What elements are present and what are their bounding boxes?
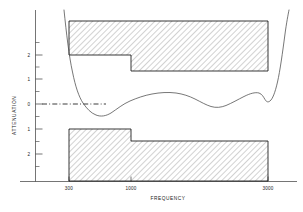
y-axis-major-ticks <box>36 55 43 154</box>
x-tick-label-1000: 1000 <box>125 186 136 191</box>
y-tick-label-0: 0 <box>28 102 31 107</box>
upper-limit-mask <box>69 21 268 71</box>
y-tick-label-1-lower: 1 <box>28 127 31 132</box>
attenuation-vs-frequency-chart: 2 1 0 1 2 ATTENUATION 300 1000 3000 FREQ… <box>0 0 303 212</box>
x-tick-label-300: 300 <box>65 186 74 191</box>
y-tick-label-2-upper: 2 <box>28 53 31 58</box>
lower-limit-mask <box>69 129 268 181</box>
chart-canvas: 2 1 0 1 2 ATTENUATION 300 1000 3000 FREQ… <box>0 0 303 212</box>
y-axis-minor-ticks <box>36 43 40 167</box>
x-tick-label-3000: 3000 <box>262 186 273 191</box>
y-tick-label-2-lower: 2 <box>28 152 31 157</box>
y-tick-label-1-upper: 1 <box>28 77 31 82</box>
x-axis-title: FREQUENCY <box>150 196 185 201</box>
y-axis-title: ATTENUATION <box>12 96 17 135</box>
